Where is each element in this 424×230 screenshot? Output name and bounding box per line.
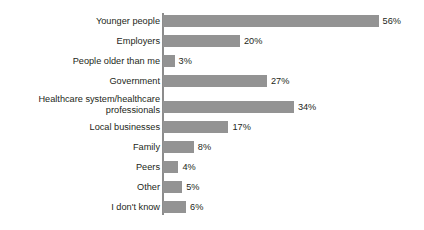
bar-value-label: 4%: [178, 161, 195, 173]
bar: [163, 141, 194, 153]
bar-with-value: 27%: [163, 75, 289, 87]
bar-row: Local businesses17%: [0, 119, 424, 139]
bar: [163, 15, 379, 27]
bar: [163, 181, 182, 193]
bar-value-label: 5%: [182, 181, 199, 193]
bar-with-value: 17%: [163, 121, 251, 133]
bar-value-label: 20%: [240, 35, 262, 47]
bar-row: People older than me3%: [0, 53, 424, 73]
bar: [163, 201, 186, 213]
bar-row: Family8%: [0, 139, 424, 159]
bar-with-value: 34%: [163, 101, 316, 113]
bar-value-label: 56%: [379, 15, 401, 27]
bar-value-label: 3%: [175, 55, 192, 67]
bar: [163, 121, 228, 133]
category-label: Healthcare system/healthcare professiona…: [10, 94, 160, 115]
category-label: Government: [10, 76, 160, 87]
category-label: Other: [10, 182, 160, 193]
bar-row: Peers4%: [0, 159, 424, 179]
bar-rows: Younger people56%Employers20%People olde…: [0, 13, 424, 219]
category-label: People older than me: [10, 56, 160, 67]
category-label: Local businesses: [10, 122, 160, 133]
bar-row: Employers20%: [0, 33, 424, 53]
bar-with-value: 5%: [163, 181, 200, 193]
category-label: Peers: [10, 162, 160, 173]
plot-area: Younger people56%Employers20%People olde…: [0, 13, 424, 217]
bar-value-label: 6%: [186, 201, 203, 213]
category-label: Employers: [10, 36, 160, 47]
bar: [163, 101, 294, 113]
bar-row: Government27%: [0, 73, 424, 93]
bar-value-label: 17%: [228, 121, 250, 133]
bar-with-value: 20%: [163, 35, 262, 47]
bar-row: Healthcare system/healthcare professiona…: [0, 93, 424, 119]
bar-value-label: 27%: [267, 75, 289, 87]
category-label: I don't know: [10, 202, 160, 213]
bar-value-label: 8%: [194, 141, 211, 153]
bar-row: Younger people56%: [0, 13, 424, 33]
bar-row: I don't know6%: [0, 199, 424, 219]
bar-with-value: 6%: [163, 201, 203, 213]
bar: [163, 75, 267, 87]
bar-with-value: 4%: [163, 161, 196, 173]
bar-value-label: 34%: [294, 101, 316, 113]
bar-row: Other5%: [0, 179, 424, 199]
bar: [163, 55, 175, 67]
bar: [163, 161, 178, 173]
bar: [163, 35, 240, 47]
bar-with-value: 56%: [163, 15, 401, 27]
bar-chart: Younger people56%Employers20%People olde…: [0, 0, 424, 230]
bar-with-value: 3%: [163, 55, 192, 67]
category-label: Family: [10, 142, 160, 153]
bar-with-value: 8%: [163, 141, 211, 153]
category-label: Younger people: [10, 16, 160, 27]
